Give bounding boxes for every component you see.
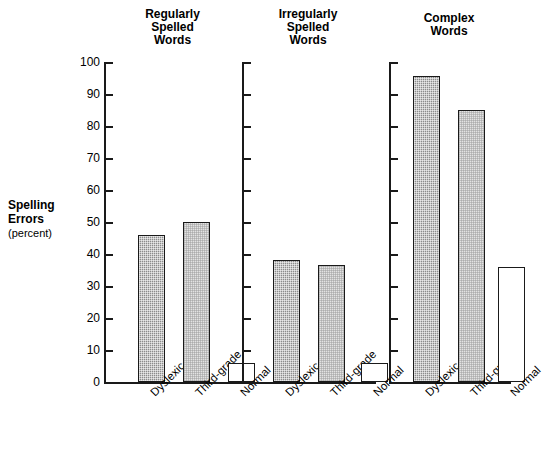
y-axis-tick bbox=[391, 286, 398, 288]
y-axis-tick-label: 90 bbox=[87, 87, 100, 101]
y-axis-tick-label: 100 bbox=[80, 55, 100, 69]
bar-dyslexic bbox=[413, 76, 440, 382]
panel-title-line: Words bbox=[100, 34, 245, 47]
y-axis-tick bbox=[106, 286, 113, 288]
y-axis-tick bbox=[106, 158, 113, 160]
bar-dyslexic bbox=[273, 260, 300, 382]
y-axis-tick bbox=[244, 350, 251, 352]
panel-title: RegularlySpelledWords bbox=[100, 8, 245, 47]
y-axis-tick bbox=[106, 222, 113, 224]
y-axis-tick-label: 20 bbox=[87, 311, 100, 325]
y-axis-tick bbox=[391, 254, 398, 256]
y-axis-tick bbox=[391, 62, 398, 64]
y-axis-tick bbox=[244, 318, 251, 320]
y-axis-tick bbox=[391, 190, 398, 192]
panel-title: IrregularlySpelledWords bbox=[238, 8, 378, 47]
x-axis-baseline bbox=[242, 382, 376, 384]
y-axis-tick bbox=[244, 94, 251, 96]
y-axis-tick-label: 70 bbox=[87, 151, 100, 165]
bar-normal bbox=[498, 267, 525, 382]
panel-irregularly-spelled-words: IrregularlySpelledWordsDyslexicThird-gra… bbox=[238, 0, 378, 460]
y-axis-tick bbox=[244, 286, 251, 288]
y-axis-tick bbox=[244, 222, 251, 224]
y-axis-tick-label: 40 bbox=[87, 247, 100, 261]
bar-third-grade bbox=[318, 265, 345, 382]
y-axis-tick bbox=[106, 190, 113, 192]
y-axis-tick bbox=[391, 350, 398, 352]
y-axis-tick-label: 50 bbox=[87, 215, 100, 229]
y-axis-tick-label: 0 bbox=[93, 375, 100, 389]
y-axis-tick bbox=[106, 318, 113, 320]
y-axis-tick bbox=[106, 350, 113, 352]
y-axis-tick bbox=[244, 126, 251, 128]
bar-dyslexic bbox=[138, 235, 165, 382]
panel-complex-words: ComplexWordsDyslexicThird-gradeNormal bbox=[385, 0, 513, 460]
y-axis-tick-label: 30 bbox=[87, 279, 100, 293]
x-axis-baseline bbox=[104, 382, 243, 384]
y-axis-tick bbox=[391, 318, 398, 320]
y-axis-tick bbox=[244, 158, 251, 160]
panel-title-line: Words bbox=[385, 25, 513, 38]
y-axis-tick bbox=[391, 94, 398, 96]
y-axis-tick-label: 60 bbox=[87, 183, 100, 197]
y-axis-tick bbox=[106, 126, 113, 128]
bar-third-grade bbox=[183, 222, 210, 382]
y-axis-tick bbox=[244, 62, 251, 64]
y-axis-tick-label: 80 bbox=[87, 119, 100, 133]
panel-title: ComplexWords bbox=[385, 12, 513, 38]
y-axis-tick bbox=[391, 158, 398, 160]
y-axis-tick bbox=[106, 94, 113, 96]
panel-regularly-spelled-words: RegularlySpelledWordsDyslexicThird-grade… bbox=[100, 0, 245, 460]
y-axis-tick bbox=[106, 254, 113, 256]
panel-title-line: Words bbox=[238, 34, 378, 47]
y-axis-tick bbox=[391, 126, 398, 128]
y-axis-tick-label: 10 bbox=[87, 343, 100, 357]
y-axis-tick bbox=[244, 254, 251, 256]
y-axis-tick bbox=[391, 222, 398, 224]
y-axis-tick-labels: 0102030405060708090100 bbox=[70, 0, 100, 460]
y-axis-tick bbox=[244, 190, 251, 192]
y-axis-tick bbox=[106, 62, 113, 64]
bar-third-grade bbox=[458, 110, 485, 382]
